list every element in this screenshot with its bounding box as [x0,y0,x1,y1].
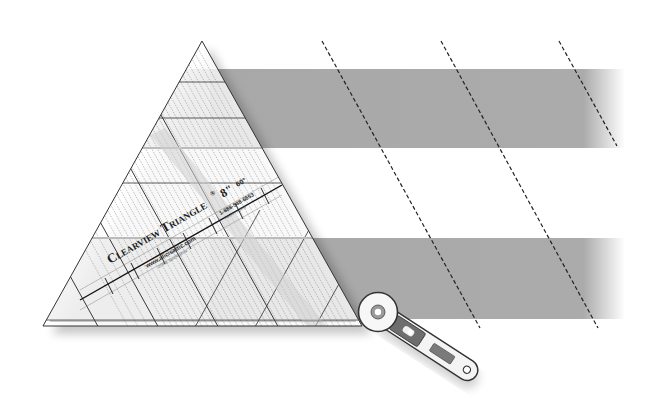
quilting-diagram: Clearview Triangle ® 8" 60° www.alicisat… [0,0,653,417]
top-strip [210,69,625,148]
cutter-hub [375,309,381,315]
